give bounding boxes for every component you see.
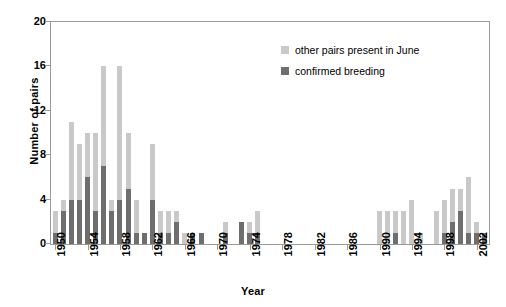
- bar-group: [466, 177, 471, 244]
- bar-segment-other-pairs: [174, 211, 179, 222]
- bar-group: [393, 211, 398, 244]
- bar-segment-confirmed-breeding: [174, 222, 179, 244]
- bar-segment-confirmed-breeding: [166, 233, 171, 244]
- bar-group: [166, 211, 171, 244]
- bar-group: [69, 122, 74, 244]
- bar-segment-other-pairs: [434, 211, 439, 244]
- x-tick-label: 1986: [347, 232, 359, 272]
- x-tick-label: 1962: [152, 232, 164, 272]
- x-tick-label: 2002: [477, 232, 489, 272]
- legend-label: confirmed breeding: [295, 65, 385, 77]
- bar-segment-other-pairs: [158, 211, 163, 233]
- bar-segment-confirmed-breeding: [142, 233, 147, 244]
- bar-segment-other-pairs: [450, 189, 455, 222]
- y-tick-label: 12: [0, 104, 46, 116]
- bar-segment-confirmed-breeding: [109, 211, 114, 244]
- legend-label: other pairs present in June: [295, 44, 419, 56]
- bar-group: [134, 200, 139, 244]
- bar-segment-other-pairs: [458, 189, 463, 211]
- y-tick-label: 8: [0, 148, 46, 160]
- bars-layer: [51, 22, 489, 244]
- bar-segment-other-pairs: [61, 200, 66, 211]
- bar-segment-confirmed-breeding: [77, 200, 82, 244]
- bar-group: [199, 233, 204, 244]
- bar-segment-other-pairs: [53, 211, 58, 233]
- bar-segment-other-pairs: [255, 211, 260, 233]
- bar-segment-other-pairs: [109, 200, 114, 211]
- bar-group: [150, 144, 155, 244]
- y-tick-label: 0: [0, 237, 46, 249]
- bar-segment-confirmed-breeding: [458, 211, 463, 244]
- bar-group: [117, 66, 122, 244]
- x-tick-label: 1982: [315, 232, 327, 272]
- bar-group: [142, 233, 147, 244]
- bar-group: [239, 222, 244, 244]
- bar-segment-other-pairs: [150, 144, 155, 200]
- bar-segment-other-pairs: [126, 133, 131, 189]
- bar-segment-other-pairs: [93, 133, 98, 211]
- bar-group: [93, 133, 98, 244]
- bar-group: [101, 66, 106, 244]
- bar-segment-confirmed-breeding: [239, 222, 244, 244]
- bar-segment-other-pairs: [466, 177, 471, 233]
- bar-segment-other-pairs: [117, 66, 122, 199]
- bar-group: [458, 189, 463, 244]
- x-tick-label: 1974: [250, 232, 262, 272]
- bar-segment-other-pairs: [166, 211, 171, 233]
- y-tick-label: 20: [0, 15, 46, 27]
- x-tick-label: 1950: [55, 232, 67, 272]
- bar-segment-confirmed-breeding: [466, 233, 471, 244]
- x-tick-label: 1966: [185, 232, 197, 272]
- bar-segment-confirmed-breeding: [393, 233, 398, 244]
- bar-segment-other-pairs: [101, 66, 106, 166]
- bar-segment-other-pairs: [442, 200, 447, 233]
- bar-segment-confirmed-breeding: [101, 166, 106, 244]
- chart-legend: other pairs present in Juneconfirmed bre…: [281, 44, 419, 86]
- bar-chart: Number of pairs 048121620 19501954195819…: [0, 0, 506, 307]
- legend-swatch-icon: [281, 67, 289, 75]
- bar-segment-confirmed-breeding: [199, 233, 204, 244]
- bar-segment-other-pairs: [134, 200, 139, 233]
- bar-segment-other-pairs: [85, 133, 90, 177]
- bar-group: [401, 211, 406, 244]
- bar-segment-other-pairs: [401, 211, 406, 244]
- bar-group: [109, 200, 114, 244]
- x-tick-label: 1978: [282, 232, 294, 272]
- bar-group: [77, 144, 82, 244]
- x-tick-label: 1998: [444, 232, 456, 272]
- bar-segment-other-pairs: [393, 211, 398, 233]
- bar-segment-confirmed-breeding: [134, 233, 139, 244]
- x-axis-title: Year: [0, 285, 506, 297]
- x-tick-label: 1954: [88, 232, 100, 272]
- bar-segment-other-pairs: [69, 122, 74, 200]
- bar-segment-confirmed-breeding: [69, 200, 74, 244]
- bar-group: [174, 211, 179, 244]
- bar-group: [126, 133, 131, 244]
- x-tick-label: 1958: [120, 232, 132, 272]
- legend-item[interactable]: confirmed breeding: [281, 65, 419, 77]
- legend-item[interactable]: other pairs present in June: [281, 44, 419, 56]
- bar-group: [85, 133, 90, 244]
- x-tick-label: 1990: [380, 232, 392, 272]
- y-tick-label: 4: [0, 193, 46, 205]
- legend-swatch-icon: [281, 46, 289, 54]
- x-tick-label: 1994: [412, 232, 424, 272]
- bar-segment-other-pairs: [77, 144, 82, 200]
- x-tick-label: 1970: [217, 232, 229, 272]
- y-tick-label: 16: [0, 59, 46, 71]
- bar-group: [434, 211, 439, 244]
